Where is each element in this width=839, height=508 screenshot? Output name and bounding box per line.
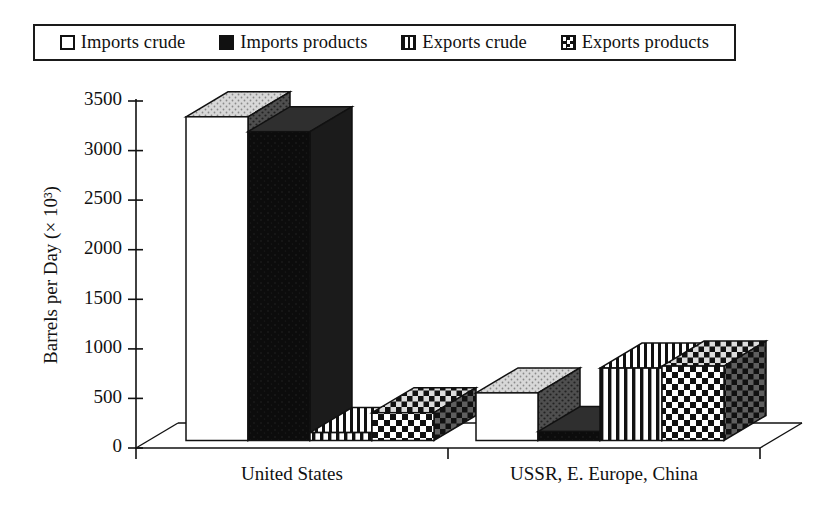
y-axis-title: Barrels per Day (× 10³) xyxy=(40,186,62,364)
chart-canvas: 3500 3000 2500 2000 1500 1000 500 0 Barr… xyxy=(0,0,839,508)
bar-ussr-exports-products xyxy=(662,341,766,440)
x-category-label-ussr: USSR, E. Europe, China xyxy=(510,463,698,484)
y-tick-label: 500 xyxy=(94,386,123,407)
x-category-label-united-states: United States xyxy=(241,463,343,484)
y-tick-label: 1500 xyxy=(84,287,122,308)
y-tick-label: 3000 xyxy=(84,138,122,159)
y-tick-label: 3500 xyxy=(84,88,122,109)
bar-chart: 3500 3000 2500 2000 1500 1000 500 0 Barr… xyxy=(0,0,839,508)
y-tick-label: 0 xyxy=(113,435,123,456)
bar-us-exports-products xyxy=(372,388,476,441)
x-axis: United States USSR, E. Europe, China xyxy=(136,448,760,484)
y-axis: 3500 3000 2500 2000 1500 1000 500 0 xyxy=(84,88,143,456)
y-tick-label: 2500 xyxy=(84,187,122,208)
y-tick-label: 1000 xyxy=(84,336,122,357)
y-tick-label: 2000 xyxy=(84,237,122,258)
bar-us-imports-products xyxy=(248,107,352,441)
